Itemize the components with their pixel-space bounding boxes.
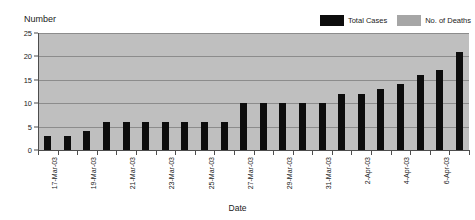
x-tick-mark: [116, 150, 117, 155]
legend-swatch-no-of-deaths: [397, 15, 421, 26]
bar-slot: [391, 33, 411, 150]
bar[interactable]: [221, 122, 228, 150]
x-tick-mark: [136, 150, 137, 155]
legend-item-total-cases: Total Cases: [320, 15, 387, 26]
x-tick-mark: [410, 150, 411, 155]
bar[interactable]: [181, 122, 188, 150]
bar[interactable]: [240, 103, 247, 150]
x-tick-mark: [77, 150, 78, 155]
bar[interactable]: [142, 122, 149, 150]
y-tick-label-0: 0: [6, 146, 32, 155]
bar-slot: [136, 33, 156, 150]
bar-slot: [38, 33, 58, 150]
bar-slot: [410, 33, 430, 150]
x-tick-mark: [58, 150, 59, 155]
x-tick-label: 21-Mar-03: [129, 157, 136, 189]
legend-swatch-total-cases: [320, 15, 344, 26]
x-tick-mark: [214, 150, 215, 155]
bar[interactable]: [338, 94, 345, 150]
x-tick-label: 25-Mar-03: [208, 157, 215, 189]
x-tick-mark: [254, 150, 255, 155]
bar[interactable]: [397, 84, 404, 150]
y-tick-label-15: 15: [6, 75, 32, 84]
x-tick-label: 17-Mar-03: [51, 157, 58, 189]
legend-item-no-of-deaths: No. of Deaths: [397, 15, 471, 26]
x-tick-mark: [38, 150, 39, 155]
bar-slot: [234, 33, 254, 150]
x-tick-mark: [293, 150, 294, 155]
x-tick-mark: [449, 150, 450, 155]
bar-slot: [312, 33, 332, 150]
bar-slot: [293, 33, 313, 150]
x-tick-mark: [97, 150, 98, 155]
legend-label-no-of-deaths: No. of Deaths: [425, 16, 471, 25]
chart-title: Total No. of Cases & No. of Deaths: Taiw…: [0, 0, 475, 1]
bar[interactable]: [417, 75, 424, 150]
bar-slot: [254, 33, 274, 150]
bar-slot: [351, 33, 371, 150]
bar[interactable]: [377, 89, 384, 150]
bar[interactable]: [103, 122, 110, 150]
chart-container: Total No. of Cases & No. of Deaths: Taiw…: [0, 0, 475, 220]
x-tick-label: 6-Apr-03: [443, 157, 450, 184]
bar-slot: [332, 33, 352, 150]
x-tick-mark: [391, 150, 392, 155]
x-tick-mark: [371, 150, 372, 155]
x-tick-label: 27-Mar-03: [247, 157, 254, 189]
bar-slot: [273, 33, 293, 150]
bar[interactable]: [83, 131, 90, 150]
bar-slot: [214, 33, 234, 150]
bar-slot: [449, 33, 469, 150]
bar[interactable]: [201, 122, 208, 150]
x-tick-mark: [430, 150, 431, 155]
bar-slot: [430, 33, 450, 150]
bar-series-group: [38, 33, 469, 150]
bar[interactable]: [123, 122, 130, 150]
x-tick-mark: [156, 150, 157, 155]
bar-slot: [156, 33, 176, 150]
y-tick-label-25: 25: [6, 29, 32, 38]
y-axis-label: Number: [24, 14, 56, 24]
bar-slot: [116, 33, 136, 150]
bar-slot: [175, 33, 195, 150]
bar[interactable]: [44, 136, 51, 150]
bar-slot: [77, 33, 97, 150]
y-tick-label-5: 5: [6, 122, 32, 131]
chart-legend: Total CasesNo. of Deaths: [320, 15, 471, 26]
x-tick-mark: [332, 150, 333, 155]
x-tick-label: 19-Mar-03: [90, 157, 97, 189]
bar[interactable]: [162, 122, 169, 150]
bar[interactable]: [64, 136, 71, 150]
x-tick-mark: [175, 150, 176, 155]
x-tick-label: 4-Apr-03: [403, 157, 410, 184]
x-tick-mark: [273, 150, 274, 155]
bar[interactable]: [260, 103, 267, 150]
bar-slot: [371, 33, 391, 150]
bar[interactable]: [279, 103, 286, 150]
x-tick-mark: [312, 150, 313, 155]
x-tick-mark: [351, 150, 352, 155]
x-tick-label: 31-Mar-03: [325, 157, 332, 189]
x-tick-label: 23-Mar-03: [168, 157, 175, 189]
x-tick-mark: [469, 150, 470, 155]
x-tick-mark: [234, 150, 235, 155]
y-tick-label-20: 20: [6, 52, 32, 61]
x-axis-title: Date: [0, 203, 475, 213]
x-tick-mark: [195, 150, 196, 155]
x-tick-label: 29-Mar-03: [286, 157, 293, 189]
bar[interactable]: [456, 52, 463, 150]
bar[interactable]: [319, 103, 326, 150]
bar[interactable]: [436, 70, 443, 150]
bar-slot: [58, 33, 78, 150]
legend-label-total-cases: Total Cases: [348, 16, 387, 25]
bar[interactable]: [299, 103, 306, 150]
bar-slot: [97, 33, 117, 150]
y-tick-label-10: 10: [6, 99, 32, 108]
bar-slot: [195, 33, 215, 150]
bar[interactable]: [358, 94, 365, 150]
x-tick-label: 2-Apr-03: [364, 157, 371, 184]
